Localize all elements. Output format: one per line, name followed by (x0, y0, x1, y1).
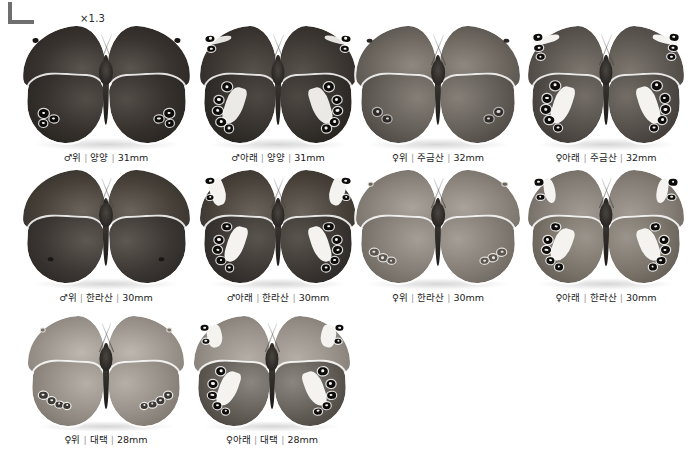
specimen-cell-r1c4[interactable]: ♀아래|주금산|32mm (524, 22, 688, 170)
specimen-image-r3c2 (190, 312, 354, 430)
specimen-caption-r3c1: ♀위|대택|28mm (24, 432, 188, 446)
specimen-cell-r1c1[interactable]: ♂위|양양|31mm (18, 22, 194, 170)
specimen-image-r1c3 (352, 22, 524, 148)
specimen-caption-r2c3: ♀위|한라산|30mm (352, 290, 524, 304)
specimen-cell-r2c3[interactable]: ♀위|한라산|30mm (352, 166, 524, 314)
specimen-caption-r1c2: ♂아래|양양|31mm (196, 150, 360, 164)
specimen-image-r2c2 (196, 166, 360, 288)
specimen-cell-r2c4[interactable]: ♀아래|한라산|30mm (524, 166, 688, 314)
specimen-image-r3c1 (24, 312, 188, 430)
specimen-cell-r2c2[interactable]: ♂아래|한라산|30mm (196, 166, 360, 314)
specimen-caption-r2c4: ♀아래|한라산|30mm (524, 290, 688, 304)
specimen-image-r2c4 (524, 166, 688, 288)
specimen-caption-r1c3: ♀위|주금산|32mm (352, 150, 524, 164)
specimen-caption-r1c4: ♀아래|주금산|32mm (524, 150, 688, 164)
specimen-cell-r1c2[interactable]: ♂아래|양양|31mm (196, 22, 360, 170)
specimen-image-r2c1 (18, 166, 194, 288)
specimen-caption-r1c1: ♂위|양양|31mm (18, 150, 194, 164)
specimen-image-r1c2 (196, 22, 360, 148)
specimen-cell-r1c3[interactable]: ♀위|주금산|32mm (352, 22, 524, 170)
specimen-image-r1c4 (524, 22, 688, 148)
specimen-cell-r3c2[interactable]: ♀아래|대택|28mm (190, 312, 354, 460)
specimen-plate: ×1.3 (0, 0, 696, 471)
specimen-image-r2c3 (352, 166, 524, 288)
specimen-caption-r3c2: ♀아래|대택|28mm (190, 432, 354, 446)
specimen-caption-r2c2: ♂아래|한라산|30mm (196, 290, 360, 304)
specimen-cell-r3c1[interactable]: ♀위|대택|28mm (24, 312, 188, 460)
specimen-image-r1c1 (18, 22, 194, 148)
specimen-cell-r2c1[interactable]: ♂위|한라산|30mm (18, 166, 194, 314)
crop-corner-mark (8, 2, 34, 24)
specimen-caption-r2c1: ♂위|한라산|30mm (18, 290, 194, 304)
